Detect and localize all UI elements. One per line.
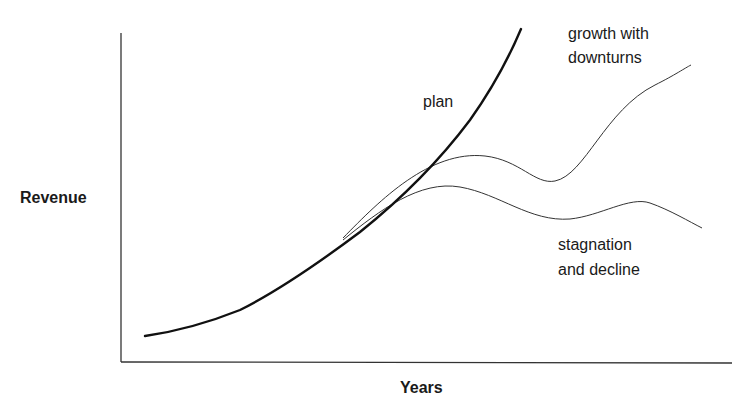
y-axis-title: Revenue — [20, 189, 87, 207]
series-stagnation-and-decline — [343, 186, 702, 240]
x-axis — [121, 362, 732, 363]
label-stagnation-line1: stagnation — [558, 235, 632, 254]
chart-canvas — [0, 0, 756, 413]
series-growth-with-downturns — [343, 65, 691, 238]
label-stagnation-line2: and decline — [558, 260, 640, 279]
label-growth-line1: growth with — [568, 24, 649, 43]
x-axis-title: Years — [400, 379, 443, 397]
label-growth-line2: downturns — [568, 48, 642, 67]
series-plan — [145, 29, 521, 336]
label-plan: plan — [423, 92, 453, 111]
